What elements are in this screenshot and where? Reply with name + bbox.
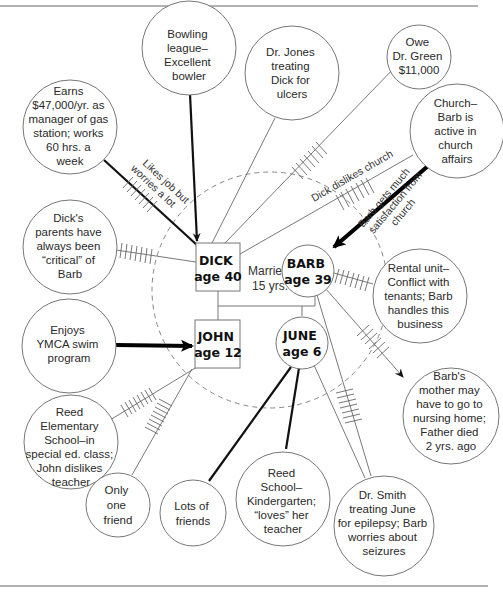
system-earns[interactable]: Earns $47,000/yr. as manager of gas stat… xyxy=(23,80,117,174)
connection-drsmith-barb xyxy=(317,295,371,476)
connection-rental-barb xyxy=(334,269,373,291)
connection-ymca-john xyxy=(116,345,192,346)
system-bowling[interactable]: Bowling league– Excellent bowler xyxy=(142,1,236,95)
connection-bowling-dick xyxy=(190,94,197,241)
system-drgreen[interactable]: Owe Dr. Green $11,000 xyxy=(387,25,451,89)
label-job: Likes job but worries a lot xyxy=(128,153,194,217)
svg-text:Only one friend: Only one friend xyxy=(104,484,133,526)
system-lots-of-friends[interactable]: Lots of friends xyxy=(160,480,226,546)
system-barbs-mother[interactable]: Barb's mother may have to go to nursing … xyxy=(403,368,499,464)
connection-reedelem-john xyxy=(110,367,197,420)
system-parents[interactable]: Dick's parents have always been “critica… xyxy=(23,200,117,294)
member-june[interactable]: JUNE age 6 xyxy=(276,317,328,369)
system-reed-elementary[interactable]: Reed Elementary School–in special ed. cl… xyxy=(24,395,118,489)
member-john[interactable]: JOHN age 12 xyxy=(194,320,242,368)
svg-text:BARB age 39: BARB age 39 xyxy=(284,256,332,287)
system-only-one-friend[interactable]: Only one friend xyxy=(86,473,150,537)
system-drjones[interactable]: Dr. Jones treating Dick for ulcers xyxy=(245,26,339,120)
system-church[interactable]: Church– Barb is active in church affairs xyxy=(410,84,503,178)
system-rental[interactable]: Rental unit– Conflict with tenants; Barb… xyxy=(373,249,467,343)
connection-drsmith-june xyxy=(314,365,365,478)
system-reed-kindergarten[interactable]: Reed School– Kindergarten; “loves” her t… xyxy=(236,452,330,546)
ecomap-diagram: Likes job but worries a lot Dick dislike… xyxy=(0,0,503,599)
member-dick[interactable]: DICK age 40 xyxy=(194,243,242,291)
connection-reedk-june xyxy=(286,368,299,449)
system-drsmith[interactable]: Dr. Smith treating June for epilepsy; Ba… xyxy=(334,476,434,576)
svg-text:JOHN age 12: JOHN age 12 xyxy=(194,329,242,360)
connection-onefriend-john xyxy=(132,369,192,475)
svg-text:JUNE age 6: JUNE age 6 xyxy=(282,328,322,359)
svg-text:DICK age 40: DICK age 40 xyxy=(194,253,242,284)
system-ymca[interactable]: Enjoys YMCA swim program xyxy=(22,299,116,393)
member-barb[interactable]: BARB age 39 xyxy=(282,245,334,297)
